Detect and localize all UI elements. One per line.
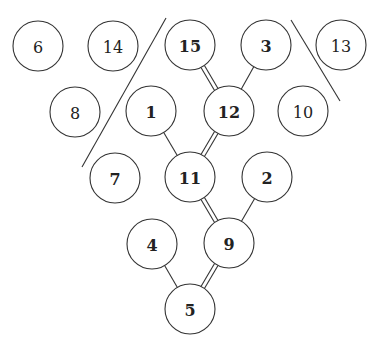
node-label: 3	[260, 37, 271, 56]
node-7: 7	[90, 153, 140, 203]
node-13: 13	[316, 20, 366, 70]
node-9: 9	[204, 218, 254, 268]
node-3: 3	[241, 20, 291, 70]
node-5: 5	[165, 284, 215, 334]
node-4: 4	[127, 219, 177, 269]
node-10: 10	[278, 86, 328, 136]
node-1: 1	[126, 86, 176, 136]
node-label: 4	[146, 236, 157, 255]
node-label: 12	[218, 103, 240, 122]
node-15: 15	[165, 20, 215, 70]
edge-3-12-single	[241, 67, 254, 89]
node-label: 2	[261, 169, 272, 188]
edge-15-12-double	[201, 66, 218, 91]
nodes: 614153138112107112495	[13, 20, 366, 334]
node-11: 11	[165, 152, 215, 202]
node-8: 8	[50, 87, 100, 137]
edge-9-5-double	[201, 264, 218, 289]
node-label: 15	[179, 37, 201, 56]
node-label: 8	[70, 104, 80, 123]
edge-2-9-single	[241, 199, 254, 222]
node-label: 6	[33, 38, 43, 57]
edge-4-5-single	[165, 266, 178, 288]
node-label: 10	[293, 103, 313, 122]
node-label: 13	[331, 37, 351, 56]
node-label: 9	[223, 235, 234, 254]
node-label: 7	[109, 170, 120, 189]
node-14: 14	[88, 21, 138, 71]
node-label: 14	[103, 38, 123, 57]
node-label: 1	[145, 103, 156, 122]
node-6: 6	[13, 21, 63, 71]
edge-12-11-double	[201, 132, 218, 157]
node-label: 5	[184, 301, 195, 320]
edge-11-9-double	[201, 198, 218, 223]
node-2: 2	[242, 152, 292, 202]
tree-diagram: 614153138112107112495	[0, 0, 383, 353]
node-label: 11	[179, 169, 201, 188]
node-12: 12	[204, 86, 254, 136]
edge-1-11-single	[164, 133, 178, 156]
